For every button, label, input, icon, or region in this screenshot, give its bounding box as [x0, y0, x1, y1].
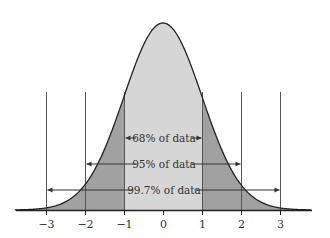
range-label: 99.7% of data [127, 184, 201, 196]
range-label: 95% of data [132, 158, 196, 170]
x-tick-label: −2 [77, 218, 93, 231]
range-label: 68% of data [132, 132, 196, 144]
range-arrows: 68% of data95% of data99.7% of data [48, 132, 280, 196]
x-tick-label: 3 [277, 218, 284, 231]
x-tick-label: −1 [116, 218, 132, 231]
x-tick-label: −3 [38, 218, 54, 231]
x-tick-label: 2 [238, 218, 245, 231]
x-axis-ticks: −3−2−10123 [38, 210, 284, 231]
x-tick-label: 0 [160, 218, 167, 231]
center-region [124, 23, 202, 210]
x-tick-label: 1 [199, 218, 206, 231]
normal-distribution-chart: −3−2−10123 68% of data95% of data99.7% o… [0, 0, 330, 238]
range-arrow: 68% of data [126, 132, 202, 144]
shaded-regions [15, 23, 311, 210]
chart-canvas: −3−2−10123 68% of data95% of data99.7% o… [0, 0, 330, 238]
